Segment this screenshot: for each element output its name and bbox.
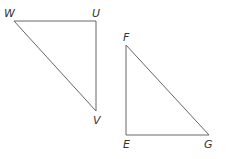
triangles-diagram: W U V F E G [0,0,226,159]
vertex-label-g: G [204,138,213,151]
vertex-label-e: E [123,138,130,151]
vertex-label-u: U [92,7,100,20]
vertex-label-w: W [4,7,16,20]
triangle-feg [126,45,209,135]
vertex-label-v: V [93,114,102,127]
triangle-wuv [14,21,96,111]
vertex-label-f: F [123,31,130,44]
